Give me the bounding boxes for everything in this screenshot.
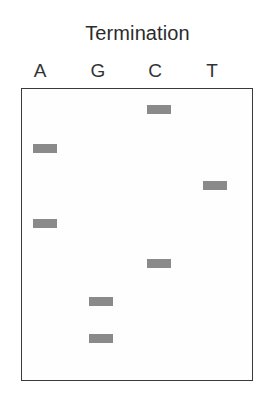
gel-band-g: [89, 297, 113, 306]
lane-label-row: AGCT: [21, 59, 254, 83]
gel-band-a: [33, 219, 57, 228]
lane-label-a: A: [27, 59, 53, 83]
gel-band-c: [147, 105, 171, 114]
gel-band-g: [89, 334, 113, 343]
gel-plate: [21, 88, 253, 381]
sequencing-gel-figure: Termination AGCT: [0, 0, 275, 401]
lane-label-c: C: [142, 59, 168, 83]
lane-label-t: T: [199, 59, 225, 83]
gel-band-a: [33, 144, 57, 153]
gel-band-c: [147, 259, 171, 268]
gel-band-t: [203, 181, 227, 190]
figure-title: Termination: [0, 21, 275, 45]
lane-label-g: G: [85, 59, 111, 83]
